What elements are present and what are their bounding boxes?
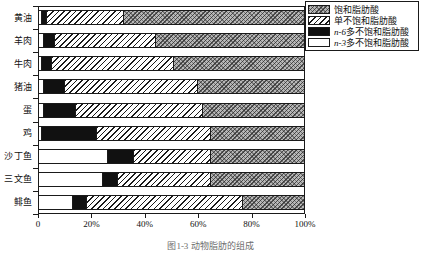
bar-segment-sat	[211, 150, 304, 163]
stacked-bar	[38, 79, 305, 94]
stacked-bar	[38, 149, 305, 164]
y-axis-label: 沙丁鱼	[4, 151, 32, 161]
bar-segment-mono	[55, 34, 156, 47]
bar-segment-sat	[198, 80, 304, 93]
bar-segment-mono	[118, 173, 211, 186]
bar-segment-n3	[39, 196, 73, 209]
bar-segment-sat	[124, 11, 304, 24]
legend-swatch-icon	[308, 38, 330, 47]
bar-segment-sat	[243, 196, 304, 209]
bar-segment-mono	[97, 127, 211, 140]
bar-row	[38, 33, 305, 48]
x-axis-tick-label: 60%	[190, 219, 207, 230]
legend-swatch-icon	[308, 16, 330, 25]
x-axis-tick	[145, 214, 146, 218]
y-axis-label: 蛋	[23, 105, 32, 115]
bar-segment-n3	[39, 173, 103, 186]
stacked-bar	[38, 195, 305, 210]
bar-segment-n6	[73, 196, 86, 209]
x-axis-tick	[198, 214, 199, 218]
bar-row	[38, 10, 305, 25]
y-axis-label: 黄油	[14, 13, 32, 23]
legend-item: n-3多不饱和脂肪酸	[308, 37, 416, 48]
x-axis-tick	[252, 214, 253, 218]
bar-row	[38, 149, 305, 164]
x-axis-tick-label: 100%	[295, 219, 316, 230]
bar-segment-n6	[42, 57, 53, 70]
bar-segment-mono	[47, 11, 124, 24]
stacked-bar	[38, 172, 305, 187]
y-axis-label: 三文鱼	[4, 174, 32, 184]
stacked-bar	[38, 103, 305, 118]
y-axis-label: 牛肉	[14, 59, 32, 69]
bar-segment-sat	[211, 127, 304, 140]
bar-segment-n6	[103, 173, 119, 186]
figure-caption: 图1-3 动物脂肪的组成	[0, 241, 421, 252]
legend-swatch-icon	[308, 27, 330, 36]
y-axis-label: 羊肉	[14, 36, 32, 46]
x-axis-tick	[91, 214, 92, 218]
bar-segment-sat	[174, 57, 304, 70]
y-axis-labels: 黄油羊肉牛肉猪油蛋鸡沙丁鱼三文鱼鲱鱼	[0, 6, 36, 214]
bar-segment-mono	[52, 57, 174, 70]
bar-segment-mono	[87, 196, 243, 209]
legend-label: n-6多不饱和脂肪酸	[334, 27, 409, 37]
bar-segment-sat	[211, 173, 304, 186]
legend-item: 饱和脂肪酸	[308, 4, 416, 15]
fatty-acid-composition-chart: 黄油羊肉牛肉猪油蛋鸡沙丁鱼三文鱼鲱鱼 020%40%60%80%100% 饱和脂…	[0, 0, 421, 253]
y-axis-label: 猪油	[14, 82, 32, 92]
legend-label: n-3多不饱和脂肪酸	[334, 38, 409, 48]
stacked-bar	[38, 56, 305, 71]
x-axis-labels: 020%40%60%80%100%	[0, 219, 340, 233]
legend-label: 饱和脂肪酸	[334, 5, 379, 15]
bar-segment-n3	[39, 150, 108, 163]
bar-segment-mono	[134, 150, 211, 163]
bar-segment-sat	[156, 34, 304, 47]
bar-row	[38, 195, 305, 210]
x-axis-tick-label: 20%	[83, 219, 100, 230]
bar-row	[38, 126, 305, 141]
legend-swatch-icon	[308, 5, 330, 14]
bar-row	[38, 56, 305, 71]
legend-label: 单不饱和脂肪酸	[334, 16, 397, 26]
y-axis-label: 鲱鱼	[14, 197, 32, 207]
bar-segment-mono	[65, 80, 198, 93]
legend-item: 单不饱和脂肪酸	[308, 15, 416, 26]
bar-segment-sat	[203, 104, 304, 117]
bar-segment-n6	[44, 34, 55, 47]
bar-segment-n6	[44, 104, 76, 117]
x-axis-tick-label: 0	[36, 219, 41, 230]
x-axis-tick	[38, 214, 39, 218]
legend-item: n-6多不饱和脂肪酸	[308, 26, 416, 37]
x-axis-tick-label: 80%	[243, 219, 260, 230]
bar-segment-n6	[42, 127, 98, 140]
bar-segment-mono	[76, 104, 203, 117]
stacked-bar	[38, 126, 305, 141]
bar-row	[38, 172, 305, 187]
y-axis-label: 鸡	[23, 128, 32, 138]
bar-rows	[38, 6, 305, 214]
bar-row	[38, 103, 305, 118]
x-axis-tick	[305, 214, 306, 218]
x-axis-tick-label: 40%	[137, 219, 154, 230]
stacked-bar	[38, 33, 305, 48]
bar-segment-n6	[108, 150, 135, 163]
legend: 饱和脂肪酸单不饱和脂肪酸n-6多不饱和脂肪酸n-3多不饱和脂肪酸	[305, 1, 419, 51]
bar-segment-n6	[44, 80, 65, 93]
stacked-bar	[38, 10, 305, 25]
bar-row	[38, 79, 305, 94]
